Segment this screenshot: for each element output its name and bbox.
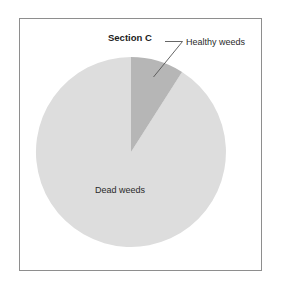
figure-root: Section C Healthy weeds Dead weeds: [0, 0, 283, 291]
healthy-weeds-label: Healthy weeds: [186, 37, 246, 47]
dead-weeds-label: Dead weeds: [95, 185, 146, 195]
pie-chart: Section C Healthy weeds Dead weeds: [0, 0, 283, 291]
chart-title: Section C: [108, 32, 152, 43]
pie-slice-dead-weeds[interactable]: [36, 57, 226, 247]
